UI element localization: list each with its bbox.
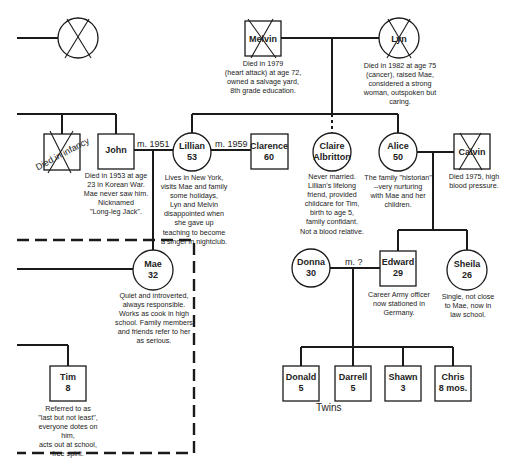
marriage-label-1959: m. 1959 (215, 139, 248, 149)
marriage-label-1951: m. 1951 (137, 139, 170, 149)
lillian-name: Lillian (179, 141, 205, 151)
melvin-name: Melvin (249, 34, 277, 44)
donald-age: 5 (298, 383, 303, 393)
person-melvin: Melvin (245, 19, 281, 58)
person-edward: Edward 29 (380, 251, 416, 286)
edward-name: Edward (382, 257, 415, 267)
darrell-age: 5 (350, 383, 355, 393)
sheila-note: Single, not close to Mae, now in law sch… (440, 292, 496, 319)
donald-name: Donald (286, 372, 317, 382)
edward-note: Career Army officer now stationed in Ger… (368, 290, 430, 317)
alice-name: Alice (387, 141, 409, 151)
tim-age: 8 (65, 383, 70, 393)
edward-age: 29 (393, 268, 403, 278)
shawn-age: 3 (400, 383, 405, 393)
sheila-name: Sheila (454, 259, 482, 269)
person-shawn: Shawn 3 (385, 366, 421, 401)
donna-age: 30 (306, 268, 316, 278)
person-lyn: Lyn (379, 18, 419, 58)
mae-note: Quiet and introverted, always responsibl… (115, 291, 193, 346)
twins-label: Twins (316, 402, 342, 413)
person-mae: Mae 32 (133, 250, 173, 290)
chris-name: Chris (441, 372, 464, 382)
marriage-label-unknown: m. ? (345, 257, 363, 267)
person-calvin: Calvin (454, 133, 490, 170)
mae-name: Mae (144, 259, 162, 269)
sheila-age: 26 (462, 270, 472, 280)
calvin-note: Died 1975, high blood pressure. (444, 172, 504, 190)
clarence-name: Clarence (250, 141, 288, 151)
person-died-in-infancy: Died in infancy (34, 131, 91, 173)
shawn-name: Shawn (388, 372, 417, 382)
person-claire-albritton: Claire Albritton (313, 133, 351, 171)
tim-name: Tim (60, 372, 76, 382)
sibship-line-melvin-lyn (192, 114, 398, 134)
person-unknown-grandparent (58, 18, 98, 58)
claire-name: Claire (319, 141, 344, 151)
person-darrell: Darrell 5 (335, 366, 371, 401)
claire-surname: Albritton (313, 152, 351, 162)
clarence-age: 60 (264, 152, 274, 162)
person-lillian: Lillian 53 (173, 133, 211, 171)
person-chris: Chris 8 mos. (435, 366, 471, 401)
person-donna: Donna 30 (292, 249, 330, 287)
john-name: John (105, 145, 127, 155)
lillian-note: Lives in New York, visits Mae and family… (156, 173, 232, 246)
alice-note: The family "historian" --very nurturing … (362, 173, 434, 209)
darrell-name: Darrell (339, 372, 368, 382)
john-note: Died in 1953 at age 23 in Korean War. Ma… (80, 171, 152, 216)
melvin-note: Died in 1979 (heart attack) at age 72, o… (223, 59, 303, 95)
person-john: John (98, 134, 134, 169)
tim-note: Referred to as "last but not least", eve… (32, 404, 104, 459)
person-clarence: Clarence 60 (250, 134, 288, 169)
calvin-name: Calvin (458, 147, 485, 157)
sibship-line-left (17, 114, 116, 134)
sibship-line-edward-children (301, 347, 453, 366)
donna-name: Donna (297, 257, 326, 267)
lillian-age: 53 (187, 152, 197, 162)
chris-age: 8 mos. (439, 383, 468, 393)
person-tim: Tim 8 (50, 366, 86, 401)
alice-age: 50 (393, 152, 403, 162)
person-alice: Alice 50 (379, 133, 417, 171)
claire-note: Never married. Lillian's lifelong friend… (296, 172, 368, 236)
lyn-name: Lyn (391, 34, 407, 44)
mae-age: 32 (148, 270, 158, 280)
person-sheila: Sheila 26 (447, 250, 487, 290)
lyn-note: Died in 1982 at age 75 (cancer), raised … (360, 61, 440, 106)
person-donald: Donald 5 (283, 366, 319, 401)
marriage-lillian-clarence: m. 1959 (211, 139, 251, 150)
